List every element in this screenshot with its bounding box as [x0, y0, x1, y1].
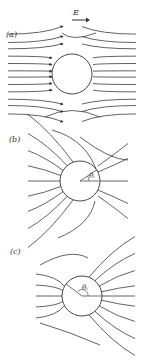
panel-a-field-line-left-9 [8, 99, 63, 104]
panel-b-field-line-in-7 [28, 196, 67, 228]
panel-a-field-line-right-0 [82, 27, 136, 35]
panel-a-field-line-right-1 [82, 37, 136, 43]
panel-a-field-line-top-0 [62, 33, 96, 38]
field-label: E [72, 8, 79, 17]
panel-a-field-line-right-9 [82, 99, 136, 104]
panel-c-angle-label: θᵢ [82, 284, 88, 292]
panel-a-field-line-right-7 [93, 84, 136, 85]
panel-b-field-line-bottom-0 [58, 201, 95, 238]
panel-c-field-line-left-4 [36, 306, 64, 318]
panel-c-field-line-right-5 [102, 286, 135, 292]
panel-a-field-line-left-4 [8, 64, 52, 65]
panel-a-sphere [52, 54, 92, 94]
panel-a-label: (a) [6, 30, 17, 39]
panel-b-field-line-in-6 [28, 192, 63, 212]
panel-a-field-line-right-3 [93, 56, 136, 58]
panel-b-field-line-in-0 [28, 115, 73, 163]
panel-a: (a) [6, 27, 136, 122]
panel-b-field-line-in-5 [28, 187, 61, 197]
panel-b-label: (b) [9, 135, 20, 144]
panel-a-field-line-right-4 [93, 64, 136, 65]
panel-a-field-line-bottom-0 [45, 111, 100, 118]
panel-b-angle-label: θᵢ [89, 172, 95, 180]
panel-c-field-line-top-0 [40, 254, 88, 265]
panel-a-field-line-right-8 [93, 90, 136, 92]
panel-b-field-line-in-8 [28, 200, 73, 248]
panel-b-field-line-out-1 [98, 159, 128, 173]
panel-c-field-line-right-2 [99, 306, 135, 322]
panel-a-field-line-right-10 [82, 106, 136, 112]
panel-b-field-line-out-3 [98, 190, 128, 204]
panel-b-field-line-in-3 [28, 166, 61, 176]
panel-c: (c) θᵢ [10, 237, 135, 356]
panel-c-field-line-right-1 [95, 311, 135, 338]
panel-a-field-line-left-3 [8, 56, 52, 58]
panel-c-field-line-left-1 [36, 285, 64, 291]
field-arrow-icon [86, 18, 90, 23]
panel-a-field-line-left-7 [8, 84, 52, 85]
panel-a-field-line-left-8 [8, 90, 52, 92]
panel-c-label: (c) [10, 247, 21, 256]
field-lines-figure: E (a) (b) θᵢ (c) θᵢ [0, 0, 145, 363]
panel-b-field-line-in-1 [28, 134, 67, 166]
panel-a-field-line-right-2 [82, 44, 136, 49]
panel-b-field-line-in-2 [28, 151, 63, 171]
panel-c-field-line-right-7 [95, 254, 135, 281]
panel-c-field-line-bottom-0 [40, 323, 100, 345]
field-direction-indicator: E [72, 8, 90, 23]
panel-b-field-line-top-1 [80, 137, 128, 160]
panel-a-field-line-left-10 [8, 106, 63, 112]
panel-c-field-line-left-3 [36, 301, 64, 307]
panel-c-field-line-right-6 [99, 271, 135, 287]
panel-b-field-line-out-4 [98, 196, 128, 219]
panel-c-field-line-left-0 [36, 274, 64, 286]
panel-c-field-line-right-3 [102, 300, 135, 306]
panel-b-field-line-out-0 [98, 144, 128, 167]
panel-a-field-line-right-11 [82, 114, 136, 122]
panel-a-field-line-left-2 [8, 44, 63, 49]
panel-b: (b) θᵢ [9, 115, 128, 248]
